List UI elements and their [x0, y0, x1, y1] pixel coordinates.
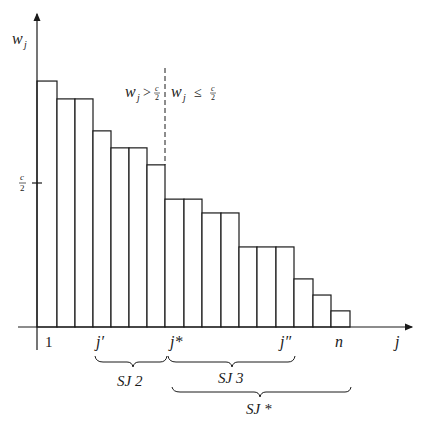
brace-sj3-label: SJ 3: [218, 370, 243, 386]
bar-item-6: [129, 148, 147, 327]
brace-sj2-label: SJ 2: [117, 373, 143, 389]
bars-group: [37, 81, 350, 327]
svg-text:>: >: [143, 85, 151, 100]
svg-text:w: w: [125, 83, 136, 100]
brace-sjstar-label: SJ *: [246, 401, 272, 417]
x-axis-label: j: [393, 333, 400, 351]
condition-left: w j > c 2: [125, 83, 160, 103]
bar-item-5: [111, 148, 129, 327]
x-tick-label-n: n: [335, 333, 343, 350]
bar-item-1: [37, 81, 57, 327]
x-tick-label-1: 1: [45, 334, 53, 350]
brace-sj3: [168, 356, 295, 367]
svg-text:2: 2: [211, 93, 215, 102]
c-half-den: 2: [20, 183, 25, 193]
y-axis-label-sub: j: [22, 39, 27, 50]
svg-text:c: c: [155, 84, 159, 93]
bar-item-12: [239, 247, 257, 327]
x-tick-label-jdprime: j″: [278, 333, 291, 351]
svg-text:j: j: [135, 92, 140, 103]
bar-item-3: [75, 99, 93, 327]
x-tick-label-jprime: j′: [94, 333, 104, 351]
bar-item-13: [257, 247, 276, 327]
svg-text:2: 2: [155, 93, 159, 102]
condition-right: w j ≤ c 2: [171, 83, 216, 103]
bar-item-8: [165, 199, 184, 327]
x-tick-label-jstar: j*: [168, 333, 182, 351]
bar-item-10: [202, 213, 221, 327]
bar-item-11: [221, 213, 239, 327]
bar-item-7: [147, 165, 165, 327]
svg-text:j: j: [181, 92, 186, 103]
bar-item-17: [331, 311, 350, 327]
svg-text:w: w: [171, 83, 182, 100]
y-axis-label: w: [12, 30, 23, 47]
bar-item-16: [313, 295, 331, 327]
bar-item-4: [93, 131, 111, 327]
brace-sjstar: [172, 387, 351, 397]
bar-item-9: [184, 199, 202, 327]
c-half-num: c: [20, 172, 24, 182]
svg-text:≤: ≤: [194, 85, 202, 100]
bar-item-15: [294, 279, 313, 327]
brace-sj2: [95, 356, 167, 367]
knapsack-weight-diagram: w j c 2 w j > c 2 w j ≤ c 2 1 j′ j* j″ n…: [0, 0, 422, 425]
bar-item-14: [276, 247, 294, 327]
bar-item-2: [57, 99, 75, 327]
svg-text:c: c: [211, 84, 215, 93]
